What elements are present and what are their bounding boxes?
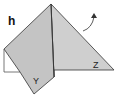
flap-z xyxy=(51,4,114,77)
flap-y-label: Y xyxy=(33,76,39,86)
flap-z-label: Z xyxy=(93,60,99,70)
fold-arrow-icon xyxy=(83,17,94,31)
fold-diagram xyxy=(0,0,120,99)
arrowhead-icon xyxy=(91,13,97,18)
flap-y xyxy=(4,4,54,94)
